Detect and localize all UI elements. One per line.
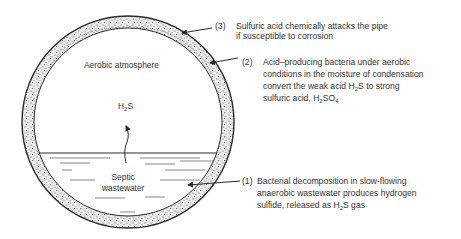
annotation-1-line-3: sulfide, released as H2S gas (257, 200, 365, 211)
h2s-label: H2S (118, 101, 133, 111)
annotation-2-number: (2) (242, 57, 253, 68)
leader-arrow-3 (182, 28, 212, 33)
h2s-rising-arrow (125, 126, 129, 163)
annotation-3-line-1: Sulfuric acid chemically attacks the pip… (236, 21, 388, 32)
annotation-3-number: (3) (215, 21, 226, 32)
aerobic-atmosphere-label: Aerobic atmosphere (84, 60, 159, 70)
septic-wastewater-label: Septicwastewater (102, 172, 144, 194)
annotation-3-line-2: if susceptible to corrosion (236, 31, 333, 42)
pipe-diagram (0, 0, 461, 239)
annotation-2-line-1: Acid–producing bacteria under aerobic (263, 57, 410, 68)
annotation-2-line-4: sulfuric acid, H2SO4 (263, 93, 338, 104)
annotation-2-line-2: conditions in the moisture of condensati… (263, 69, 424, 80)
pipe-wall (22, 16, 234, 228)
annotation-1-number: (1) (242, 176, 253, 187)
annotation-2-line-3: convert the weak acid H2S to strong (263, 81, 400, 92)
annotation-1-line-2: anaerobic wastewater produces hydrogen (257, 188, 417, 199)
annotation-1-line-1: Bacterial decomposition in slow-flowing (257, 176, 407, 187)
